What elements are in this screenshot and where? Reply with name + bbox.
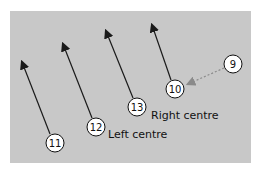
play-diagram: 9 10 11 12 13 — [0, 0, 260, 171]
player-number: 10 — [169, 84, 182, 95]
player-number: 11 — [49, 138, 62, 149]
player-12: 12 — [87, 118, 105, 136]
player-13: 13 — [128, 98, 146, 116]
label-right-centre: Right centre — [151, 109, 219, 122]
player-number: 9 — [230, 59, 236, 70]
run-arrow-12 — [63, 44, 92, 118]
label-left-centre: Left centre — [108, 128, 167, 141]
run-arrow-10 — [152, 25, 171, 80]
player-number: 13 — [131, 102, 144, 113]
run-arrow-11 — [22, 62, 50, 134]
player-9: 9 — [224, 55, 242, 73]
player-10: 10 — [166, 80, 184, 98]
player-11: 11 — [46, 134, 64, 152]
run-arrow-13 — [106, 31, 133, 98]
player-number: 12 — [90, 122, 103, 133]
pass-arrow-9-to-10 — [188, 68, 224, 84]
